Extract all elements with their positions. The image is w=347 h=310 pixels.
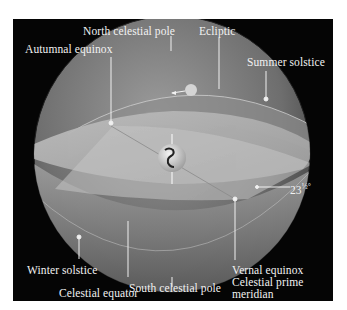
label-vernal-equinox: Vernal equinox [232,264,303,276]
label-summer-solstice: Summer solstice [247,56,325,68]
label-south-celestial-pole: South celestial pole [129,282,221,294]
angle-value: 23 [290,184,302,196]
label-north-celestial-pole: North celestial pole [83,25,175,37]
label-celestial-equator: Celestial equator [59,287,138,299]
angle-fraction: ½° [302,182,311,191]
label-ecliptic: Ecliptic [199,25,236,37]
label-meridian: meridian [232,288,274,300]
label-celestial-prime: Celestial prime [232,276,303,288]
south-celestial-pole-text: South celestial pole [129,282,221,294]
celestial-sphere-diagram: North celestial pole Ecliptic Autumnal e… [13,19,333,301]
label-winter-solstice: Winter solstice [27,264,97,276]
label-angle: 23½° [290,181,311,196]
label-autumnal-equinox: Autumnal equinox [25,43,113,55]
